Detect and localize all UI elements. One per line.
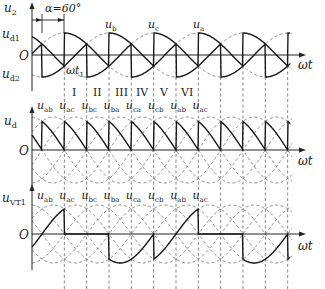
line-label-uab: uab [170,99,186,114]
wt-axis-label-2: ωt [298,154,313,168]
line-label-uac: uac [192,99,207,114]
line-label-uac: uac [59,99,74,114]
line-label-uac: uac [192,189,207,204]
axes [30,2,307,270]
interval-III: III [115,86,128,99]
line-label-uca: uca [126,99,141,114]
origin-label-3: O [19,228,29,242]
wt1-label: ωt1 [66,64,84,79]
origin-label-2: O [19,144,29,158]
line-label-ubc: ubc [81,99,97,114]
interval-V: V [159,86,169,99]
line-label-ucb: ucb [148,189,164,204]
line-voltage-labels: uabuacubcubaucaucbuabuacuabuacubcubaucau… [37,99,208,204]
wt-axis-label-3: ωt [298,239,313,253]
interval-VI: VI [180,86,193,99]
line-label-uac: uac [59,189,74,204]
interval-I: I [72,86,76,99]
ud1-label: ud1 [2,27,20,43]
line-label-uab: uab [37,99,53,114]
line-label-uab: uab [170,189,186,204]
ud-axis-label: ud [4,114,17,130]
line-label-uba: uba [104,99,120,114]
ub-label: ub [105,18,117,33]
alpha-label: α=60° [45,2,81,15]
origin-label-1: O [19,49,29,63]
ua-label: ua [193,18,204,33]
wt-axis-label-1: ωt [298,58,313,72]
line-label-ubc: ubc [81,189,97,204]
line-label-uab: uab [37,189,53,204]
uc-label: uc [148,18,159,33]
waveform-svg: u2 ud1 ud2 O α=60° ωt1 ub uc ua ωt I II … [0,0,325,289]
uvt1-axis-label: uVT1 [2,191,26,207]
line-label-uba: uba [104,189,120,204]
ud2-label: ud2 [2,67,20,83]
u2-axis-label: u2 [4,1,17,17]
line-label-uca: uca [126,189,141,204]
line-label-ucb: ucb [148,99,164,114]
interval-II: II [93,86,102,99]
rectifier-waveform-diagram: u2 ud1 ud2 O α=60° ωt1 ub uc ua ωt I II … [0,0,325,289]
interval-IV: IV [136,86,149,99]
